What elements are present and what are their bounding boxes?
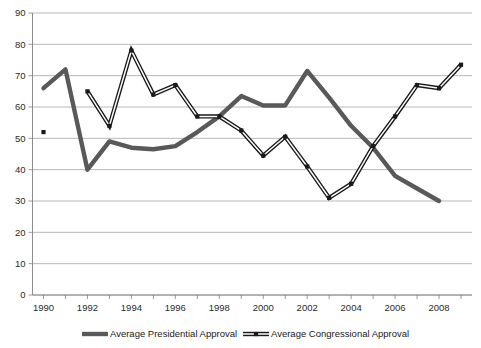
data-marker-1998 <box>217 114 221 118</box>
y-tick-label-40: 40 <box>15 164 26 175</box>
data-marker-2002 <box>305 164 309 168</box>
data-marker-2006 <box>393 114 397 118</box>
x-tick-label-1994: 1994 <box>121 302 142 313</box>
y-tick-label-90: 90 <box>15 7 26 18</box>
chart-legend: Average Presidential ApprovalAverage Con… <box>82 328 409 339</box>
data-marker-2004 <box>349 182 353 186</box>
y-tick-label-50: 50 <box>15 133 26 144</box>
y-tick-label-30: 30 <box>15 195 26 206</box>
data-marker-2007 <box>415 83 419 87</box>
data-series <box>41 49 463 202</box>
series-line-outer <box>87 51 461 198</box>
x-axis-tick-labels: 1990199219941996199820002002200420062008 <box>33 302 450 313</box>
x-tick-label-2004: 2004 <box>341 302 362 313</box>
legend-item-presidential: Average Presidential Approval <box>82 328 237 339</box>
x-tick-label-1998: 1998 <box>209 302 230 313</box>
y-tick-label-10: 10 <box>15 258 26 269</box>
x-tick-label-2002: 2002 <box>297 302 318 313</box>
y-tick-label-0: 0 <box>20 289 25 300</box>
data-marker-2001 <box>283 135 287 139</box>
legend-label: Average Presidential Approval <box>110 328 237 339</box>
x-tick-label-2008: 2008 <box>428 302 449 313</box>
y-tick-label-70: 70 <box>15 70 26 81</box>
x-tick-label-1996: 1996 <box>165 302 186 313</box>
legend-label: Average Congressional Approval <box>271 328 409 339</box>
data-marker-1995 <box>151 92 155 96</box>
data-marker-1993 <box>107 124 111 128</box>
data-marker-2009 <box>459 63 463 67</box>
data-marker-1999 <box>239 128 243 132</box>
x-tick-label-1992: 1992 <box>77 302 98 313</box>
y-tick-label-60: 60 <box>15 101 26 112</box>
data-marker-2000 <box>261 153 265 157</box>
data-marker-2008 <box>437 86 441 90</box>
data-marker-1994 <box>129 49 133 53</box>
legend-swatch-marker <box>254 332 258 336</box>
x-tick-label-2000: 2000 <box>253 302 274 313</box>
data-marker-1997 <box>195 114 199 118</box>
x-tick-label-1990: 1990 <box>33 302 54 313</box>
chart-container: 0102030405060708090 19901992199419961998… <box>0 0 481 348</box>
data-marker-1996 <box>173 83 177 87</box>
data-marker-1992 <box>85 89 89 93</box>
x-tick-label-2006: 2006 <box>385 302 406 313</box>
y-tick-label-80: 80 <box>15 39 26 50</box>
y-axis-tick-labels: 0102030405060708090 <box>15 7 26 300</box>
approval-line-chart: 0102030405060708090 19901992199419961998… <box>0 0 481 348</box>
data-marker-2005 <box>371 144 375 148</box>
data-marker-1990 <box>41 130 45 134</box>
axes <box>29 13 473 299</box>
legend-item-congressional: Average Congressional Approval <box>243 328 409 339</box>
y-tick-label-20: 20 <box>15 227 26 238</box>
data-marker-2003 <box>327 196 331 200</box>
